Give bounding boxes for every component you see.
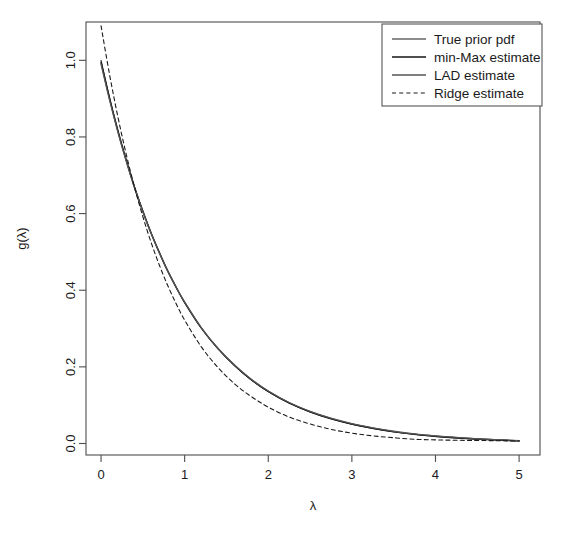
legend-label-0: True prior pdf (434, 32, 515, 47)
x-tick-label: 3 (348, 467, 355, 482)
x-tick-label: 4 (432, 467, 439, 482)
y-tick-label: 1.0 (63, 51, 78, 69)
x-axis: 012345 (97, 455, 522, 482)
legend: True prior pdfmin-Max estimateLAD estima… (382, 24, 542, 106)
line-chart: 0123450.00.20.40.60.81.0λg(λ)True prior … (0, 0, 566, 534)
y-axis: 0.00.20.40.60.81.0 (63, 51, 86, 452)
y-tick-label: 0.2 (63, 358, 78, 376)
y-tick-label: 0.8 (63, 128, 78, 146)
x-tick-label: 1 (181, 467, 188, 482)
y-axis-title: g(λ) (14, 227, 29, 249)
y-tick-label: 0.4 (63, 281, 78, 299)
x-axis-title: λ (310, 498, 317, 513)
y-tick-label: 0.0 (63, 434, 78, 452)
legend-label-2: LAD estimate (434, 68, 515, 83)
curve-series-2 (101, 64, 519, 440)
legend-label-1: min-Max estimate (434, 50, 541, 65)
x-tick-label: 2 (265, 467, 272, 482)
legend-label-3: Ridge estimate (434, 86, 524, 101)
y-tick-label: 0.6 (63, 205, 78, 223)
curve-series-1 (101, 62, 519, 441)
x-tick-label: 0 (97, 467, 104, 482)
x-tick-label: 5 (515, 467, 522, 482)
curve-series-0 (101, 60, 519, 441)
chart-container: 0123450.00.20.40.60.81.0λg(λ)True prior … (0, 0, 566, 534)
